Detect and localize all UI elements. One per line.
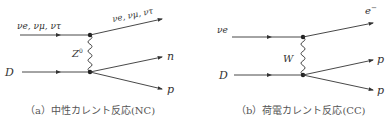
outgoing-neutrino-label: νe, νμ, ντ: [111, 5, 154, 23]
arrow-icon: [56, 33, 61, 37]
outgoing-proton-line-1: [303, 60, 373, 75]
incoming-deuteron-line: [22, 70, 90, 74]
incoming-deuteron-label: D: [218, 69, 228, 82]
feynman-diagrams: νe, νμ, ντ D Z0 νe, νμ, ντ n p （a）中性カレント…: [0, 0, 389, 128]
outgoing-proton-line-2: [303, 75, 373, 90]
outgoing-neutron-label: n: [167, 50, 174, 63]
incoming-neutrino-line: [20, 33, 90, 37]
arrow-icon: [267, 35, 272, 39]
w-boson-label: W: [283, 53, 294, 64]
outgoing-proton-label: p: [167, 83, 174, 96]
caption-nc: （a）中性カレント反応(NC): [25, 104, 155, 116]
outgoing-neutron-line: [90, 57, 162, 72]
z-boson-label: Z0: [71, 47, 83, 59]
outgoing-neutrino-line: [90, 19, 162, 35]
diagram-cc: νe D W e− p p （b）荷電カレント反応(CC): [217, 4, 384, 116]
incoming-neutrino-line: [232, 35, 303, 39]
incoming-neutrino-label: νe, νμ, ντ: [17, 21, 62, 31]
outgoing-electron-label: e−: [365, 4, 377, 16]
incoming-deuteron-line: [234, 73, 303, 77]
diagram-nc: νe, νμ, ντ D Z0 νe, νμ, ντ n p （a）中性カレント…: [4, 5, 174, 116]
arrow-icon: [56, 70, 61, 74]
caption-cc: （b）荷電カレント反応(CC): [236, 104, 366, 116]
outgoing-electron-line: [303, 23, 373, 37]
outgoing-proton-label-1: p: [377, 53, 384, 66]
outgoing-proton-line: [90, 72, 162, 89]
z-boson-propagator: [88, 35, 92, 72]
w-boson-propagator: [301, 37, 305, 75]
arrow-icon: [267, 73, 272, 77]
incoming-neutrino-label: νe: [217, 25, 228, 35]
outgoing-proton-label-2: p: [377, 84, 384, 97]
incoming-deuteron-label: D: [4, 66, 14, 79]
